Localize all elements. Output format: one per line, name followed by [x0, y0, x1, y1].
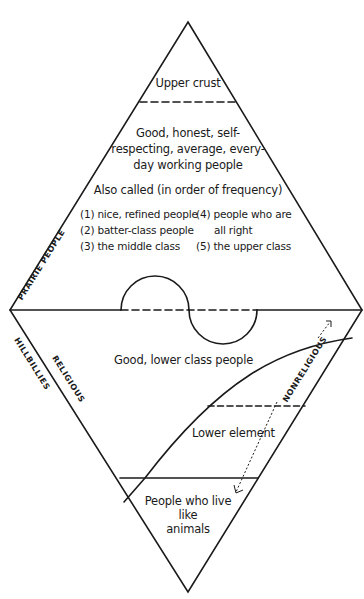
also-called-item-2: (2) batter-class people — [80, 223, 194, 237]
working-people-line-3: day working people — [108, 158, 268, 173]
upper-crust-label: Upper crust — [138, 76, 238, 91]
good-lower-class-label: Good, lower class people — [114, 353, 253, 368]
working-people-line-1: Good, honest, self- — [108, 126, 268, 141]
lower-element-label: Lower element — [192, 426, 275, 441]
upper-bump — [121, 276, 189, 310]
lower-bump — [189, 310, 257, 344]
also-called-heading: Also called (in order of frequency) — [72, 183, 304, 198]
also-called-item-4: (4) people who are — [196, 207, 292, 221]
animals-line-2: like — [128, 508, 248, 523]
animals-line-3: animals — [128, 522, 248, 537]
also-called-item-3: (3) the middle class — [80, 239, 180, 253]
also-called-item-5: (5) the upper class — [196, 239, 291, 253]
also-called-item-4-cont: all right — [214, 223, 252, 237]
working-people-line-2: respecting, average, every- — [98, 142, 278, 157]
also-called-item-1: (1) nice, refined people — [80, 207, 198, 221]
animals-line-1: People who live — [128, 494, 248, 509]
